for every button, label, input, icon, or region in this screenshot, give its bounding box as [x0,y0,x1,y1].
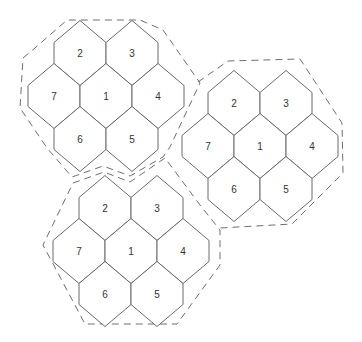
cell-label: 2 [77,48,83,59]
cell-label: 1 [257,141,263,152]
cell-label: 4 [155,91,161,102]
cell-label: 1 [128,246,134,257]
cluster-bottom: 2371465 [53,176,209,327]
cell-label: 7 [76,246,82,257]
hex-clusters: 237146523714652371465 [28,21,338,327]
cell-label: 3 [129,48,135,59]
cell-label: 3 [154,203,160,214]
cluster-right: 2371465 [182,71,338,222]
cell-label: 2 [102,203,108,214]
cell-label: 3 [283,98,289,109]
cell-label: 5 [154,289,160,300]
cluster-top-left: 2371465 [28,21,184,172]
cell-label: 6 [231,184,237,195]
cell-label: 4 [309,141,315,152]
cell-label: 2 [231,98,237,109]
hex-cluster-diagram: 237146523714652371465 [0,0,362,342]
cell-label: 5 [129,134,135,145]
cell-label: 7 [205,141,211,152]
cell-label: 7 [51,91,57,102]
cell-label: 1 [103,91,109,102]
cell-label: 5 [283,184,289,195]
cell-label: 4 [180,246,186,257]
cell-label: 6 [77,134,83,145]
cell-label: 6 [102,289,108,300]
